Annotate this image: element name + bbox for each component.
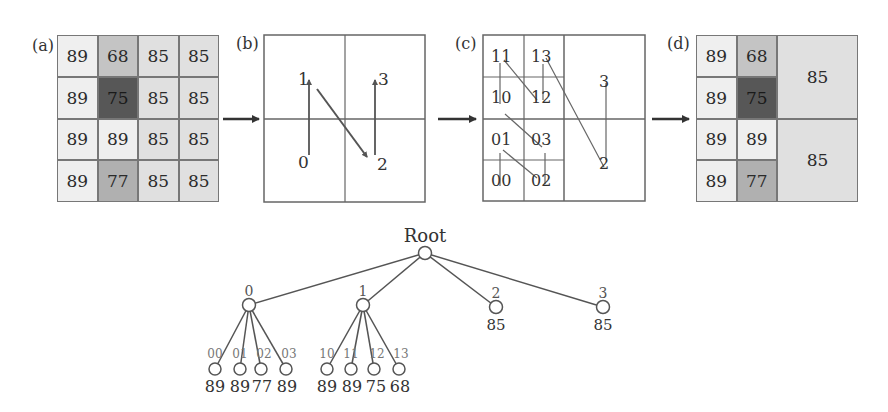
tree-leaf-00 (209, 363, 221, 375)
tree-leaf-12 (368, 363, 380, 375)
leaf-11-id: 11 (343, 347, 358, 361)
cell-label-01: 01 (491, 130, 511, 149)
leaf-13-id: 13 (393, 347, 408, 361)
diagram-canvas: 0 1 2 3 11 13 10 12 01 03 00 02 3 2 (0, 0, 888, 412)
z-label-3: 3 (378, 69, 389, 89)
tree-leaf-02 (255, 363, 267, 375)
tree-node-2-value: 85 (486, 316, 505, 334)
tree-leaf-10 (321, 363, 333, 375)
cell-label-12: 12 (531, 88, 551, 107)
leaf-03-value: 89 (277, 377, 297, 396)
leaf-03-id: 03 (281, 347, 296, 361)
cell-label-10: 10 (491, 88, 511, 107)
z-label-1: 1 (298, 69, 309, 89)
tree-leaf-11 (345, 363, 357, 375)
quadtree (215, 253, 603, 369)
cell-label-00: 00 (491, 171, 511, 190)
leaf-13-value: 68 (390, 377, 410, 396)
z-label-0: 0 (298, 152, 309, 172)
tree-leaf-01 (234, 363, 246, 375)
tree-leaf-13 (393, 363, 405, 375)
leaf-01-id: 01 (232, 347, 247, 361)
quadrant-label-3: 3 (599, 72, 609, 91)
tree-root-label: Root (404, 225, 447, 246)
tree-node-0-label: 0 (245, 283, 254, 299)
leaf-02-value: 77 (252, 377, 272, 396)
tree-node-root (419, 247, 432, 260)
leaf-00-id: 00 (207, 347, 222, 361)
leaf-10-value: 89 (317, 377, 337, 396)
leaf-10-id: 10 (319, 347, 334, 361)
leaf-11-value: 89 (342, 377, 362, 396)
leaf-00-value: 89 (205, 377, 225, 396)
cell-label-02: 02 (531, 171, 551, 190)
leaf-01-value: 89 (230, 377, 250, 396)
tree-node-1 (357, 299, 370, 312)
z-label-2: 2 (377, 154, 388, 174)
cell-label-03: 03 (531, 130, 551, 149)
panel-b: 0 1 2 3 (264, 35, 425, 202)
cell-label-11: 11 (491, 47, 511, 66)
tree-node-2 (490, 301, 503, 314)
tree-node-0 (243, 299, 256, 312)
tree-node-1-label: 1 (359, 283, 368, 299)
leaf-12-id: 12 (369, 347, 384, 361)
tree-node-2-label: 2 (492, 285, 501, 301)
leaf-12-value: 75 (366, 377, 386, 396)
leaf-02-id: 02 (256, 347, 271, 361)
cell-label-13: 13 (531, 47, 551, 66)
tree-node-3-value: 85 (593, 316, 612, 334)
tree-node-3 (597, 301, 610, 314)
quadrant-label-2: 2 (599, 154, 609, 173)
tree-node-3-label: 3 (599, 285, 608, 301)
tree-leaf-03 (280, 363, 292, 375)
panel-c: 11 13 10 12 01 03 00 02 3 2 (483, 35, 645, 201)
